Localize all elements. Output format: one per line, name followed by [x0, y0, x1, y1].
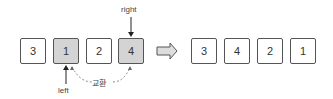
after-cell-4: 1 — [290, 38, 316, 64]
after-cell-1: 3 — [191, 38, 217, 64]
before-cell-1: 3 — [20, 38, 46, 64]
before-cell-3: 2 — [86, 38, 112, 64]
before-cell-2: 1 — [53, 38, 79, 64]
after-cell-2: 4 — [224, 38, 250, 64]
before-cell-4: 4 — [118, 38, 144, 64]
after-cell-3: 2 — [257, 38, 283, 64]
label-swap: 교환 — [92, 77, 106, 88]
diagram-lines — [0, 0, 333, 99]
label-left: left — [58, 86, 69, 95]
label-right: right — [121, 5, 137, 14]
